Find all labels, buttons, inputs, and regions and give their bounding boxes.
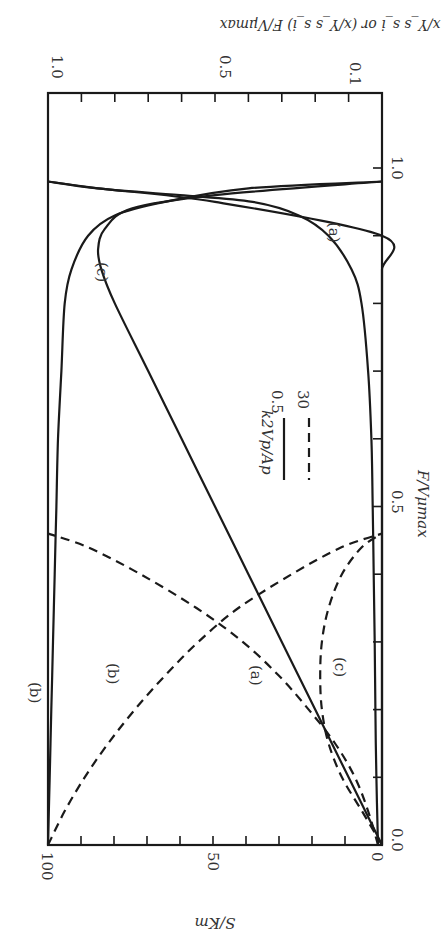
series-line-4	[48, 534, 378, 845]
tick-label-100: 100	[38, 852, 56, 881]
label-c-solid: (c)	[93, 262, 111, 282]
tick-label-0.5: 0.5	[216, 55, 234, 79]
left-axis-label: S/Km	[195, 914, 236, 932]
tick-label-f-0.5: 0.5	[388, 490, 406, 514]
label-c-dashed: (c)	[331, 657, 349, 677]
label-a-solid: (a)	[325, 222, 343, 243]
right-axis-label: x/Y_s s_i or (x/Y_s s_i) F/Vμmax	[219, 16, 440, 33]
right-axis-tick-labels: 1.0 0.5 0.1	[48, 55, 364, 86]
label-b-dashed: (b)	[104, 663, 122, 684]
tick-label-f-0.0: 0.0	[388, 828, 406, 852]
x-axis-label: F/Vμmax	[414, 469, 432, 538]
legend-title: k2Vp/Ap	[258, 410, 276, 475]
series-line-5	[48, 534, 382, 845]
left-axis-tick-labels: 100 50 0	[38, 852, 386, 881]
label-b-solid: (b)	[26, 682, 44, 703]
tick-label-0.1: 0.1	[346, 62, 364, 86]
legend-label-solid: 0.5	[268, 390, 286, 414]
legend-label-dashed: 30	[294, 390, 312, 409]
series-line-3	[98, 182, 382, 846]
tick-label-f-1.0: 1.0	[388, 156, 406, 180]
chart-canvas: 1.0 0.5 0.1 x/Y_s s_i or (x/Y_s s_i) F/V…	[0, 0, 447, 943]
plot-frame	[48, 93, 382, 845]
tick-label-0: 0	[368, 852, 386, 862]
tick-label-50: 50	[204, 852, 222, 871]
axis-ticks	[81, 93, 382, 845]
legend: k2Vp/Ap 0.5 30	[258, 390, 312, 480]
curve-labels: (a) (b) (c) (a) (b) (c)	[26, 222, 349, 703]
x-axis-tick-labels: 0.0 0.5 1.0	[388, 156, 406, 852]
tick-label-1.0: 1.0	[48, 55, 66, 79]
label-a-dashed: (a)	[247, 665, 265, 686]
